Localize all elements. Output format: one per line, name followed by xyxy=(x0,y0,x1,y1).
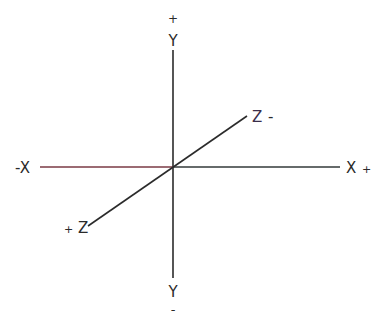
y-positive-sign: + xyxy=(168,12,178,26)
z-positive-label: Z xyxy=(78,219,88,237)
z-negative-label: Z xyxy=(252,108,262,126)
y-positive-label: Y xyxy=(167,32,178,50)
z-positive-sign: + xyxy=(64,223,73,236)
x-positive-label: X xyxy=(346,159,356,177)
x-negative-label: -X xyxy=(15,159,30,177)
x-positive-sign: + xyxy=(362,163,371,176)
z-negative-sign: - xyxy=(268,108,273,126)
z-axis-line xyxy=(88,116,247,226)
y-negative-sign: - xyxy=(171,302,176,317)
axes-diagram: + Y Y - -X X + Z - + Z xyxy=(0,0,388,320)
y-negative-label: Y xyxy=(167,283,178,301)
